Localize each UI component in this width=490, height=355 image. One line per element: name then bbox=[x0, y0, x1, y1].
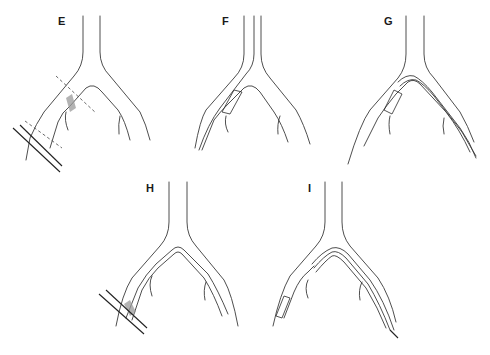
needle-outer bbox=[13, 128, 60, 172]
crossover-wire-outer bbox=[398, 76, 476, 158]
inner-crotch-wall bbox=[202, 86, 288, 150]
wire-line bbox=[199, 16, 254, 150]
panel-h: H bbox=[90, 170, 250, 355]
needle-inner bbox=[106, 290, 147, 328]
needle-outer bbox=[99, 294, 144, 334]
branch-left bbox=[65, 112, 68, 130]
sheath-balloon bbox=[384, 90, 402, 114]
panel-i: I bbox=[250, 170, 430, 355]
panel-g: G bbox=[310, 0, 490, 180]
branch-left bbox=[389, 116, 390, 134]
catheter-inner bbox=[316, 256, 386, 328]
right-outer-wall bbox=[342, 182, 396, 322]
lesion-shading bbox=[66, 94, 76, 112]
branch-right bbox=[443, 118, 444, 134]
wire-tip bbox=[390, 330, 398, 338]
branch-right bbox=[119, 116, 120, 134]
right-outer-wall bbox=[261, 16, 310, 144]
dashed-section-upper bbox=[56, 76, 96, 113]
catheter-mid bbox=[314, 252, 390, 330]
crossover-wire-inner bbox=[400, 80, 476, 156]
bifurcation-diagram-e bbox=[0, 0, 160, 180]
branch-right bbox=[359, 282, 362, 300]
panel-f: F bbox=[150, 0, 320, 180]
left-inner-wall bbox=[284, 266, 314, 318]
right-outer-wall bbox=[424, 16, 474, 142]
bifurcation-diagram-i bbox=[250, 170, 430, 355]
left-outer-wall bbox=[26, 16, 83, 160]
branch-left bbox=[150, 276, 152, 296]
left-outer-wall bbox=[116, 182, 169, 326]
panel-e: E bbox=[0, 0, 160, 180]
branch-left bbox=[225, 116, 228, 132]
branch-right bbox=[204, 282, 206, 300]
inner-crotch-wall bbox=[364, 80, 470, 152]
left-outer-wall bbox=[195, 16, 244, 148]
crossover-wire-outer bbox=[126, 247, 228, 318]
inner-crotch-wall bbox=[50, 86, 130, 148]
branch-left bbox=[306, 280, 308, 298]
bifurcation-diagram-f bbox=[150, 0, 320, 180]
bifurcation-diagram-h bbox=[90, 170, 250, 355]
right-outer-wall bbox=[187, 182, 238, 326]
left-outer-wall bbox=[348, 16, 406, 164]
right-outer-wall bbox=[100, 16, 150, 140]
bifurcation-diagram-g bbox=[310, 0, 490, 180]
